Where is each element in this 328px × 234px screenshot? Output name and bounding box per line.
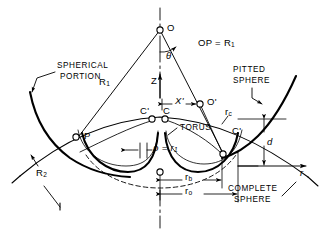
rho-eq-subscript: 1 [174,146,178,153]
leader-pitted-sphere [252,88,262,104]
label-theta: θ [166,51,171,61]
label-torus: TORUS [180,124,211,133]
radius-R1-subscript: 1 [106,80,110,87]
equation-op-text: OP = R [198,37,231,48]
label-axis-r: r [300,168,303,178]
dim-rb-subscript: b [188,175,192,182]
chord-Cprime-to-P [80,120,154,152]
radius-R2-subscript: 2 [43,171,47,178]
point-marker-C-prime-right [220,151,226,157]
label-rho-equals-r1: ρ = r1 [153,143,178,154]
dim-ro-subscript: o [188,189,192,196]
point-marker-C-prime-left [149,116,155,122]
label-point-C-prime-right: C' [232,126,241,136]
label-dim-d: d [267,137,273,147]
label-radius-R2: R2 [36,168,47,179]
complete-sphere-tail-right [308,177,318,186]
diagram-canvas [0,0,328,234]
complete-sphere-tail-left [12,176,20,183]
radius-rc-subscript: c [228,110,232,117]
point-marker-P [73,134,79,140]
dimension-d [238,119,286,166]
label-complete-sphere-line1: COMPLETE [228,185,277,194]
leader-spherical-portion [32,72,55,92]
label-point-C-prime-left: C' [140,106,149,116]
label-point-C: C [163,106,170,116]
point-marker-C [162,116,168,122]
label-spherical-portion-line2: PORTION [60,73,101,82]
point-marker-O [157,27,163,33]
figure-root: O O' P C' C C' OP = R1 θ Z r X' R1 R2 rc… [0,0,328,234]
label-pitted-sphere-line1: PITTED [233,66,265,75]
label-point-P: P [84,131,91,141]
label-point-O-prime: O' [207,97,217,107]
label-axis-z: Z [151,76,157,86]
point-marker-O-prime [197,101,203,107]
rho-eq-text: ρ = r [153,142,174,153]
label-dim-ro: ro [185,186,192,197]
label-radius-rc: rc [225,107,232,118]
equation-op-subscript: 1 [231,41,235,48]
point-marker-bottom-center [157,169,163,175]
dimension-rho [126,143,152,158]
leader-complete-sphere [282,182,296,196]
label-pitted-sphere-line2: SPHERE [233,77,270,86]
label-spherical-portion-line1: SPHERICAL [57,62,108,71]
label-dim-rb: rb [185,172,192,183]
label-complete-sphere-line2: SPHERE [234,196,271,205]
equation-op-r1: OP = R1 [198,38,235,49]
leader-torus [168,128,177,135]
leader-R2-lower [44,186,60,207]
label-point-O: O [167,23,175,33]
label-dim-x-prime: X' [175,96,184,106]
